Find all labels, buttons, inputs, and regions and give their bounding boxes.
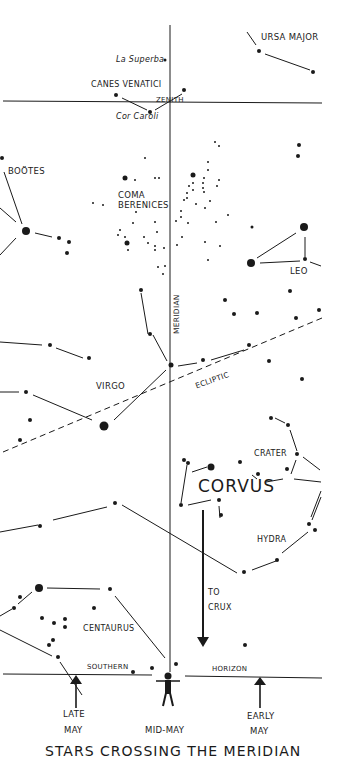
- down-arrow-icon: [197, 510, 209, 647]
- label-zenith: ZENITH: [156, 96, 184, 104]
- label-mid-may: MID-MAY: [145, 725, 184, 735]
- label-late-may: MAY: [64, 725, 83, 735]
- horizon-line-left: [3, 674, 152, 675]
- label-ursa-major: URSA MAJOR: [261, 32, 318, 42]
- label-corvus: CORVUS: [198, 476, 275, 496]
- label-la-superba: La Superba: [116, 55, 164, 64]
- label-virgo: VIRGO: [96, 381, 125, 391]
- horizon-line-right: [185, 676, 322, 678]
- label-leo: LEO: [290, 266, 308, 276]
- label-meridian: MERIDIAN: [172, 294, 181, 334]
- label-centaurus: CENTAURUS: [83, 624, 134, 633]
- figure-title: STARS CROSSING THE MERIDIAN: [45, 743, 301, 759]
- up-arrow-icon: [254, 677, 266, 708]
- label-to: TO: [208, 588, 220, 597]
- label-canes-venatici: CANES VENATICI: [91, 80, 161, 89]
- person-icon: [156, 673, 180, 707]
- ecliptic-line: [3, 318, 322, 452]
- label-cor-caroli: Cor Caroli: [116, 112, 158, 121]
- star-chart: [0, 0, 347, 779]
- label-early: EARLY: [247, 711, 274, 721]
- label-late: LATE: [63, 709, 85, 719]
- label-southern: SOUTHERN: [87, 663, 129, 671]
- stars: [0, 49, 321, 674]
- label-early-may: MAY: [250, 726, 269, 736]
- label-horizon: HORIZON: [212, 665, 247, 673]
- label-coma-1: COMA: [118, 190, 145, 200]
- label-crux: CRUX: [208, 603, 232, 612]
- label-coma-2: BERENICES: [118, 200, 169, 210]
- label-crater: CRATER: [254, 449, 287, 458]
- label-bootes: BOÖTES: [8, 166, 45, 176]
- label-hydra: HYDRA: [257, 535, 286, 544]
